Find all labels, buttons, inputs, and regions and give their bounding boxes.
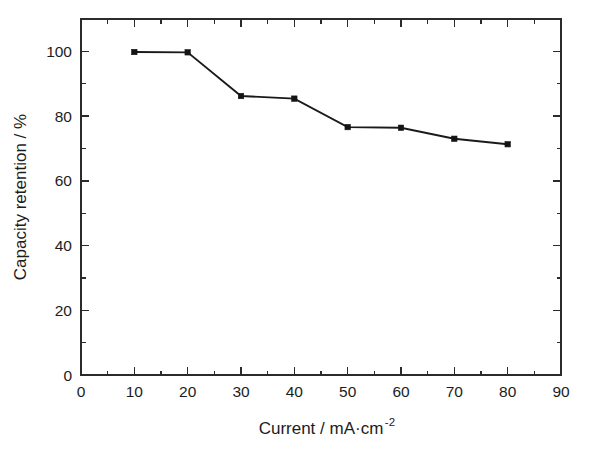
- data-point-marker: [505, 142, 510, 147]
- y-tick-label: 0: [63, 367, 72, 384]
- capacity-retention-chart: 0102030405060708090 020406080100 Current…: [0, 0, 592, 449]
- data-point-marker: [345, 124, 350, 129]
- series-line: [134, 52, 507, 144]
- data-point-marker: [452, 136, 457, 141]
- y-tick-label: 100: [46, 43, 72, 60]
- x-tick-label: 10: [126, 383, 144, 400]
- x-tick-label: 80: [499, 383, 517, 400]
- x-axis-title-text: Current / mA·cm: [259, 419, 384, 438]
- chart-canvas: 0102030405060708090 020406080100 Current…: [0, 0, 592, 449]
- y-tick-label: 40: [55, 237, 73, 254]
- y-axis-title: Capacity retention / %: [11, 114, 30, 280]
- data-point-marker: [292, 96, 297, 101]
- data-point-marker: [185, 50, 190, 55]
- x-axis-tick-labels: 0102030405060708090: [77, 383, 570, 400]
- x-tick-label: 70: [446, 383, 464, 400]
- plot-frame: [81, 19, 561, 375]
- y-axis-tick-labels: 020406080100: [46, 43, 72, 384]
- x-axis-ticks: [81, 19, 561, 375]
- data-point-marker: [398, 125, 403, 130]
- data-point-marker: [238, 93, 243, 98]
- x-tick-label: 30: [232, 383, 250, 400]
- y-axis-ticks: [81, 19, 561, 375]
- y-axis-title-text: Capacity retention / %: [11, 114, 30, 280]
- data-series-capacity-retention: [132, 49, 511, 147]
- x-tick-label: 50: [339, 383, 357, 400]
- x-tick-label: 90: [552, 383, 570, 400]
- x-tick-label: 0: [77, 383, 86, 400]
- x-tick-label: 20: [179, 383, 197, 400]
- y-tick-label: 80: [55, 108, 73, 125]
- x-tick-label: 60: [392, 383, 410, 400]
- series-markers: [132, 49, 511, 147]
- y-tick-label: 20: [55, 302, 73, 319]
- y-tick-label: 60: [55, 172, 73, 189]
- data-point-marker: [132, 49, 137, 54]
- x-tick-label: 40: [286, 383, 304, 400]
- x-axis-title: Current / mA·cm -2: [259, 416, 395, 438]
- x-axis-title-exponent: -2: [385, 416, 395, 428]
